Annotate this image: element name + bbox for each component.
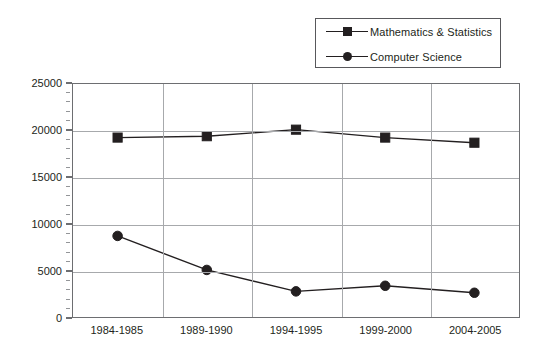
series-line xyxy=(118,236,475,293)
data-point-circle-marker xyxy=(113,231,123,241)
y-axis-tick-minor xyxy=(66,139,70,140)
legend-square-marker-icon xyxy=(324,22,370,42)
x-axis-tick-label: 1984-1985 xyxy=(90,324,143,336)
gridline-horizontal xyxy=(73,272,519,273)
y-axis-tick-minor xyxy=(66,158,70,159)
y-axis-tick-minor xyxy=(66,101,70,102)
data-point-circle-marker xyxy=(291,287,301,297)
gridline-horizontal xyxy=(73,178,519,179)
legend-label-computer-science: Computer Science xyxy=(370,51,462,63)
gridline-vertical xyxy=(163,84,164,317)
y-axis-tick-label: 20000 xyxy=(2,125,62,136)
y-axis-tick-minor xyxy=(66,233,70,234)
y-axis-tick-minor xyxy=(66,167,70,168)
y-axis-labels: 0500010000150002000025000 xyxy=(0,83,62,318)
y-axis-tick-minor xyxy=(66,148,70,149)
y-axis-tick-minor xyxy=(66,289,70,290)
legend-circle-marker-icon xyxy=(324,47,370,67)
data-point-circle-marker xyxy=(380,281,390,291)
chart-legend: Mathematics & Statistics Computer Scienc… xyxy=(315,18,501,68)
y-axis-tick-minor xyxy=(66,195,70,196)
data-point-circle-marker xyxy=(202,265,212,275)
y-axis-tick-label: 15000 xyxy=(2,172,62,183)
x-axis-tick-label: 2004-2005 xyxy=(449,324,502,336)
y-axis-tick-minor xyxy=(66,261,70,262)
y-axis-tick-label: 5000 xyxy=(2,266,62,277)
gridline-horizontal xyxy=(73,131,519,132)
y-axis-tick-minor xyxy=(66,111,70,112)
data-point-square-marker xyxy=(202,132,211,141)
data-point-square-marker xyxy=(470,138,479,147)
series-layer xyxy=(73,84,519,317)
y-axis-tick-label: 0 xyxy=(2,313,62,324)
data-point-square-marker xyxy=(113,133,122,142)
legend-label-mathematics-statistics: Mathematics & Statistics xyxy=(370,26,492,38)
y-axis-tick-label: 10000 xyxy=(2,219,62,230)
legend-item-computer-science: Computer Science xyxy=(316,44,500,69)
gridline-vertical xyxy=(342,84,343,317)
y-axis-tick-minor xyxy=(66,186,70,187)
y-axis-tick-minor xyxy=(66,252,70,253)
x-axis-tick-label: 1999-2000 xyxy=(359,324,412,336)
y-axis-tick-minor xyxy=(66,308,70,309)
gridline-vertical xyxy=(431,84,432,317)
x-axis-tick-label: 1994-1995 xyxy=(270,324,323,336)
legend-item-mathematics-statistics: Mathematics & Statistics xyxy=(316,19,500,44)
line-chart-figure: Mathematics & Statistics Computer Scienc… xyxy=(0,0,547,357)
y-axis-tick-minor xyxy=(66,242,70,243)
y-axis-tick-minor xyxy=(66,214,70,215)
y-axis-tick-minor xyxy=(66,205,70,206)
data-point-circle-marker xyxy=(470,288,480,298)
y-axis-tick-minor xyxy=(66,280,70,281)
data-point-square-marker xyxy=(381,133,390,142)
y-axis-tick-minor xyxy=(66,299,70,300)
plot-area xyxy=(72,83,520,318)
x-axis-labels: 1984-19851989-19901994-19951999-20002004… xyxy=(72,324,520,342)
data-point-square-marker xyxy=(291,125,300,134)
y-axis-tick-label: 25000 xyxy=(2,78,62,89)
y-axis-tick-minor xyxy=(66,120,70,121)
y-axis-tick-minor xyxy=(66,92,70,93)
gridline-vertical xyxy=(252,84,253,317)
gridline-horizontal xyxy=(73,225,519,226)
x-axis-tick-label: 1989-1990 xyxy=(180,324,233,336)
